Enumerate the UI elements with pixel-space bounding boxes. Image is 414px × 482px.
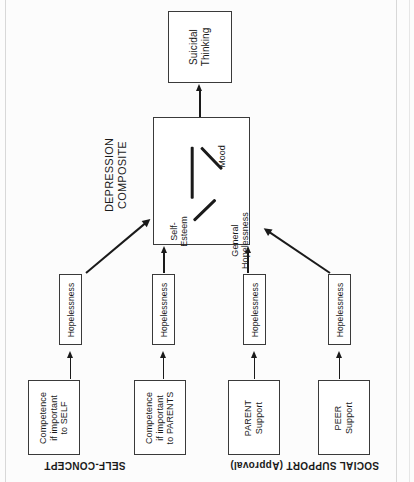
arrow-competence-self-shaft bbox=[70, 358, 72, 379]
node-hopelessness-3-label: Hopelessness bbox=[249, 282, 259, 337]
page-edge-right-outer bbox=[409, 0, 410, 482]
node-hopelessness-1: Hopelessness bbox=[59, 274, 82, 345]
arrow-hopelessness-4-to-composite bbox=[258, 224, 330, 274]
arrow-composite-to-suicidal-shaft bbox=[199, 91, 201, 117]
node-suicidal-thinking: SuicidalThinking bbox=[168, 11, 232, 83]
link-self-esteem-to-mood bbox=[190, 147, 193, 199]
node-competence-parents-label: Competenceif importantto PARENTS bbox=[144, 391, 176, 444]
caption-self-concept: SELF-CONCEPT bbox=[44, 460, 125, 471]
node-suicidal-thinking-label: SuicidalThinking bbox=[188, 28, 212, 67]
arrow-hopelessness-2-to-composite-head bbox=[161, 246, 167, 253]
node-competence-self: Competenceif importantto SELF bbox=[28, 380, 80, 455]
node-mood-label: Mood bbox=[217, 145, 227, 168]
node-competence-self-label: Competenceif importantto SELF bbox=[38, 391, 70, 443]
composite-caption: DEPRESSIONCOMPOSITE bbox=[103, 138, 129, 212]
arrow-hopelessness-1-to-composite bbox=[85, 217, 152, 274]
node-self-esteem-label: Self-Esteem bbox=[169, 216, 190, 247]
arrow-parent-support-shaft bbox=[254, 358, 256, 379]
arrow-composite-to-suicidal-head bbox=[196, 84, 202, 91]
node-competence-parents: Competenceif importantto PARENTS bbox=[134, 380, 186, 455]
caption-social-support: SOCIAL SUPPORT (Approval) bbox=[230, 460, 379, 471]
arrow-competence-parents-head bbox=[160, 351, 166, 358]
node-peer-support-label: PEERSupport bbox=[333, 401, 354, 433]
arrow-peer-support-head bbox=[336, 351, 342, 358]
page-edge-right bbox=[396, 0, 397, 482]
arrow-competence-parents-shaft bbox=[163, 358, 165, 379]
node-hopelessness-2: Hopelessness bbox=[152, 274, 175, 345]
node-hopelessness-2-label: Hopelessness bbox=[158, 282, 168, 337]
node-hopelessness-1-label: Hopelessness bbox=[65, 282, 75, 337]
node-hopelessness-3: Hopelessness bbox=[243, 274, 266, 345]
arrow-hopelessness-3-to-composite-shaft bbox=[247, 253, 249, 273]
node-hopelessness-4-label: Hopelessness bbox=[334, 282, 344, 337]
arrow-competence-self-head bbox=[67, 351, 73, 358]
node-peer-support: PEERSupport bbox=[318, 380, 370, 455]
node-depression-composite: Mood Self-Esteem GeneralHopelessness bbox=[153, 117, 250, 245]
node-parent-support-label: PARENTSupport bbox=[243, 399, 264, 435]
link-self-esteem-to-general-hopelessness bbox=[193, 199, 217, 222]
arrow-hopelessness-2-to-composite-shaft bbox=[163, 253, 165, 273]
arrow-hopelessness-3-to-composite-head bbox=[245, 246, 251, 253]
page-edge-left bbox=[5, 0, 6, 482]
node-hopelessness-4: Hopelessness bbox=[328, 274, 351, 345]
arrow-parent-support-head bbox=[251, 351, 257, 358]
node-parent-support: PARENTSupport bbox=[228, 380, 280, 455]
arrow-peer-support-shaft bbox=[339, 358, 341, 379]
